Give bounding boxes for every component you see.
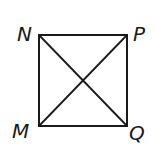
label-p: P	[133, 22, 146, 46]
label-m: M	[12, 119, 29, 143]
label-q: Q	[129, 121, 145, 145]
square-diagonals	[39, 35, 127, 126]
square-diagram: N P M Q	[0, 0, 158, 156]
label-n: N	[17, 22, 32, 46]
